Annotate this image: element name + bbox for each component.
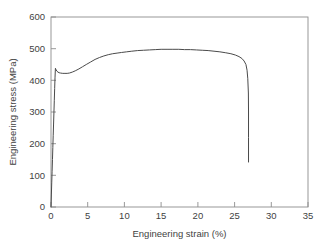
x-tick-label: 10	[119, 210, 130, 221]
x-tick-label: 0	[48, 210, 53, 221]
chart-canvas: 0 5 10 15 20 25 30 35 0 100 200 300 400 …	[0, 0, 330, 250]
x-tick-label: 5	[85, 210, 90, 221]
y-tick-label: 300	[29, 106, 45, 117]
y-tick-label: 100	[29, 170, 45, 181]
x-tick-label: 15	[156, 210, 167, 221]
x-tick-label: 30	[266, 210, 277, 221]
y-tick-label: 600	[29, 11, 45, 22]
y-axis-title: Engineering stress (MPa)	[7, 58, 18, 165]
y-tick-label: 500	[29, 43, 45, 54]
x-axis-title: Engineering strain (%)	[133, 228, 227, 239]
stress-strain-chart-figure: 0 5 10 15 20 25 30 35 0 100 200 300 400 …	[0, 0, 330, 250]
x-axis-ticks	[51, 202, 308, 207]
x-axis-tick-labels: 0 5 10 15 20 25 30 35	[48, 210, 313, 221]
y-axis-tick-labels: 0 100 200 300 400 500 600	[29, 11, 45, 212]
x-tick-label: 35	[303, 210, 314, 221]
x-tick-label: 20	[193, 210, 204, 221]
plot-frame	[51, 17, 308, 207]
stress-strain-curve	[51, 49, 249, 207]
x-tick-label: 25	[229, 210, 240, 221]
y-tick-label: 400	[29, 75, 45, 86]
y-tick-label: 0	[40, 201, 45, 212]
y-tick-label: 200	[29, 138, 45, 149]
